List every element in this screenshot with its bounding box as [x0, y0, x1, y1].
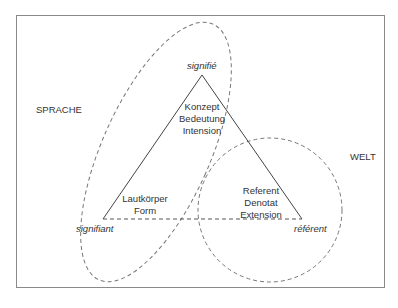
- signifie-line-3: Intension: [178, 125, 226, 137]
- signifiant-line-2: Form: [120, 205, 170, 217]
- vertex-description-referent: Referent Denotat Extension: [236, 185, 286, 221]
- vertex-term-signifiant: signifiant: [76, 223, 114, 235]
- signifie-line-2: Bedeutung: [178, 113, 226, 125]
- region-label-welt: WELT: [350, 151, 376, 163]
- vertex-description-signifiant: Lautkörper Form: [120, 193, 170, 217]
- region-label-sprache: SPRACHE: [36, 104, 82, 116]
- signifiant-line-1: Lautkörper: [120, 193, 170, 205]
- referent-line-3: Extension: [236, 209, 286, 221]
- vertex-description-signifie: Konzept Bedeutung Intension: [178, 101, 226, 137]
- referent-line-2: Denotat: [236, 197, 286, 209]
- signifie-line-1: Konzept: [178, 101, 226, 113]
- vertex-term-referent: référent: [294, 223, 327, 235]
- referent-line-1: Referent: [236, 185, 286, 197]
- vertex-term-signifie: signifié: [187, 60, 217, 72]
- semiotic-triangle-graphic: [0, 0, 398, 308]
- sprache-ellipse: [50, 2, 263, 302]
